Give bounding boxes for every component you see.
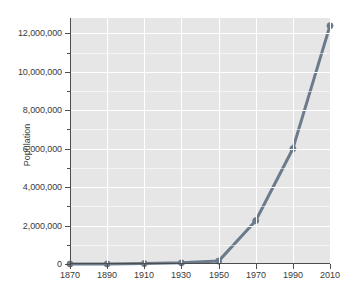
y-axis-tick-minor [67, 129, 70, 130]
x-axis-tick-label: 1910 [134, 270, 154, 280]
y-axis-line [70, 18, 71, 264]
gridline-vertical [107, 18, 108, 264]
gridline-horizontal [70, 226, 330, 227]
gridline-vertical [181, 18, 182, 264]
gridline-horizontal [70, 149, 330, 150]
gridline-horizontal [70, 187, 330, 188]
gridline-horizontal-minor [70, 53, 330, 54]
y-axis-tick [65, 72, 70, 73]
x-axis-tick [107, 264, 108, 269]
y-axis-tick-label: 8,000,000 [23, 105, 62, 115]
x-axis-tick-label: 1970 [246, 270, 266, 280]
x-axis-tick [330, 264, 331, 269]
x-axis-line [70, 263, 330, 264]
gridline-horizontal-minor [70, 168, 330, 169]
y-axis-tick [65, 110, 70, 111]
gridline-horizontal-minor [70, 206, 330, 207]
y-axis-tick [65, 149, 70, 150]
population-line-chart: Population 02,000,0004,000,0006,000,0008… [0, 0, 351, 289]
y-axis-tick-label: 2,000,000 [23, 221, 62, 231]
y-axis-tick-minor [67, 206, 70, 207]
x-axis-tick-label: 1870 [60, 270, 80, 280]
data-series-svg [70, 18, 330, 264]
x-axis-tick [219, 264, 220, 269]
x-axis-tick [181, 264, 182, 269]
gridline-horizontal-minor [70, 91, 330, 92]
plot-area [70, 18, 330, 264]
x-axis-tick-label: 1950 [209, 270, 229, 280]
y-axis-tick-label: 10,000,000 [18, 67, 62, 77]
x-axis-tick-label: 2010 [320, 270, 340, 280]
data-line-population [70, 26, 330, 264]
gridline-vertical [144, 18, 145, 264]
x-axis-tick [70, 264, 71, 269]
y-axis-tick-label: 12,000,000 [18, 28, 62, 38]
gridline-vertical [293, 18, 294, 264]
y-axis-tick [65, 187, 70, 188]
gridline-vertical [219, 18, 220, 264]
y-axis-tick-label: 0 [57, 259, 62, 269]
x-axis-tick-label: 1990 [283, 270, 303, 280]
x-axis-tick-label: 1890 [97, 270, 117, 280]
y-axis-tick-minor [67, 168, 70, 169]
x-axis-tick [256, 264, 257, 269]
gridline-horizontal [70, 72, 330, 73]
y-axis-tick-minor [67, 53, 70, 54]
gridline-vertical [256, 18, 257, 264]
gridline-horizontal-minor [70, 245, 330, 246]
gridline-horizontal-minor [70, 129, 330, 130]
x-axis-tick-label: 1930 [171, 270, 191, 280]
x-axis-tick [144, 264, 145, 269]
gridline-horizontal [70, 110, 330, 111]
y-axis-tick-label: 6,000,000 [23, 144, 62, 154]
x-axis-tick [293, 264, 294, 269]
y-axis-tick-minor [67, 91, 70, 92]
y-axis-tick-label: 4,000,000 [23, 182, 62, 192]
gridline-horizontal [70, 33, 330, 34]
y-axis-tick [65, 33, 70, 34]
y-axis-tick [65, 226, 70, 227]
y-axis-tick-minor [67, 245, 70, 246]
gridline-vertical [330, 18, 331, 264]
